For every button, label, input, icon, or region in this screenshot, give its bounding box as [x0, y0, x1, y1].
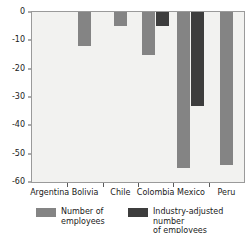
- bar-group: [32, 12, 67, 182]
- bar: [114, 12, 127, 26]
- x-tick-mark: [138, 183, 139, 187]
- bar: [220, 12, 233, 165]
- chart-legend: Number of employeesIndustry-adjusted num…: [0, 207, 251, 233]
- bar: [177, 12, 190, 168]
- y-tick-mark: [28, 153, 31, 154]
- y-tick-label: -20: [12, 65, 25, 73]
- y-tick-mark: [28, 68, 31, 69]
- y-tick-mark: [28, 97, 31, 98]
- bar: [191, 12, 204, 106]
- legend-swatch: [36, 208, 56, 217]
- y-tick-label: -50: [12, 150, 25, 158]
- bar-group: [173, 12, 208, 182]
- legend-item[interactable]: Number of employees: [36, 207, 105, 226]
- x-tick-label: Chile: [110, 188, 130, 198]
- y-tick-label: -40: [12, 121, 25, 129]
- legend-label: Industry-adjusted number of employees: [153, 207, 251, 233]
- x-tick-label: Bolivia: [72, 188, 99, 198]
- x-tick-mark: [67, 183, 68, 187]
- y-tick-label: -60: [12, 178, 25, 186]
- y-axis: 0-10-20-30-40-50-60: [0, 0, 31, 195]
- bars-layer: [32, 12, 244, 182]
- bar: [78, 12, 91, 46]
- bar-group: [103, 12, 138, 182]
- y-tick-mark: [28, 12, 31, 13]
- x-tick-label: Argentina: [30, 188, 69, 198]
- bar-group: [138, 12, 173, 182]
- y-tick-mark: [28, 182, 31, 183]
- bar: [156, 12, 169, 26]
- x-tick-label: Peru: [217, 188, 235, 198]
- x-tick-mark: [173, 183, 174, 187]
- x-tick-label: Colombia: [137, 188, 175, 198]
- x-tick-label: Mexico: [177, 188, 205, 198]
- bar-group: [67, 12, 102, 182]
- x-tick-mark: [209, 183, 210, 187]
- legend-label: Number of employees: [61, 207, 105, 226]
- y-tick-label: -30: [12, 93, 25, 101]
- bar-chart: 0-10-20-30-40-50-60 ArgentinaBoliviaChil…: [0, 0, 251, 233]
- legend-item[interactable]: Industry-adjusted number of employees: [128, 207, 251, 233]
- x-axis-ticks: [32, 183, 244, 187]
- x-tick-mark: [103, 183, 104, 187]
- y-tick-label: -10: [12, 36, 25, 44]
- y-tick-mark: [28, 40, 31, 41]
- bar: [142, 12, 155, 55]
- y-tick-label: 0: [20, 8, 25, 16]
- bar-group: [209, 12, 244, 182]
- legend-swatch: [128, 208, 148, 217]
- x-axis-labels: ArgentinaBoliviaChileColombiaMexicoPeru: [0, 188, 251, 200]
- y-tick-mark: [28, 125, 31, 126]
